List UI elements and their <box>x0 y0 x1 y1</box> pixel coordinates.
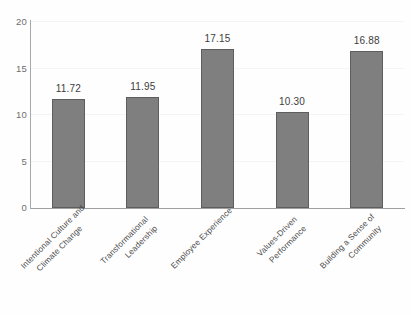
bar <box>276 112 309 208</box>
x-axis-category-label: Values-Driven Performance <box>243 214 310 281</box>
bar <box>350 51 383 208</box>
y-axis-tick-label: 5 <box>3 157 27 167</box>
x-axis-category-label: Employee Experience <box>168 214 226 272</box>
x-axis-category-label: Transformational Leadership <box>93 214 160 281</box>
bar <box>126 97 159 208</box>
bar-value-label: 10.30 <box>257 97 327 107</box>
bar-value-label: 17.15 <box>183 34 253 44</box>
bar <box>52 99 85 208</box>
x-axis-category-label: Building a Sense of Community <box>317 214 384 281</box>
y-axis-tick-label: 15 <box>3 64 27 74</box>
bar-chart: 05101520 11.7211.9517.1510.3016.88 Inten… <box>0 0 411 315</box>
y-axis-tick-label: 10 <box>3 110 27 120</box>
bar-series: 11.7211.9517.1510.3016.88 <box>31 22 404 208</box>
bar <box>201 49 234 208</box>
bar-value-label: 11.72 <box>33 84 103 94</box>
y-axis-tick-label: 20 <box>3 17 27 27</box>
x-axis-category-labels: Intentional Culture and Climate ChangeTr… <box>0 208 411 315</box>
bar-value-label: 11.95 <box>108 82 178 92</box>
x-axis-category-label: Intentional Culture and Climate Change <box>19 214 86 281</box>
bar-value-label: 16.88 <box>332 36 402 46</box>
